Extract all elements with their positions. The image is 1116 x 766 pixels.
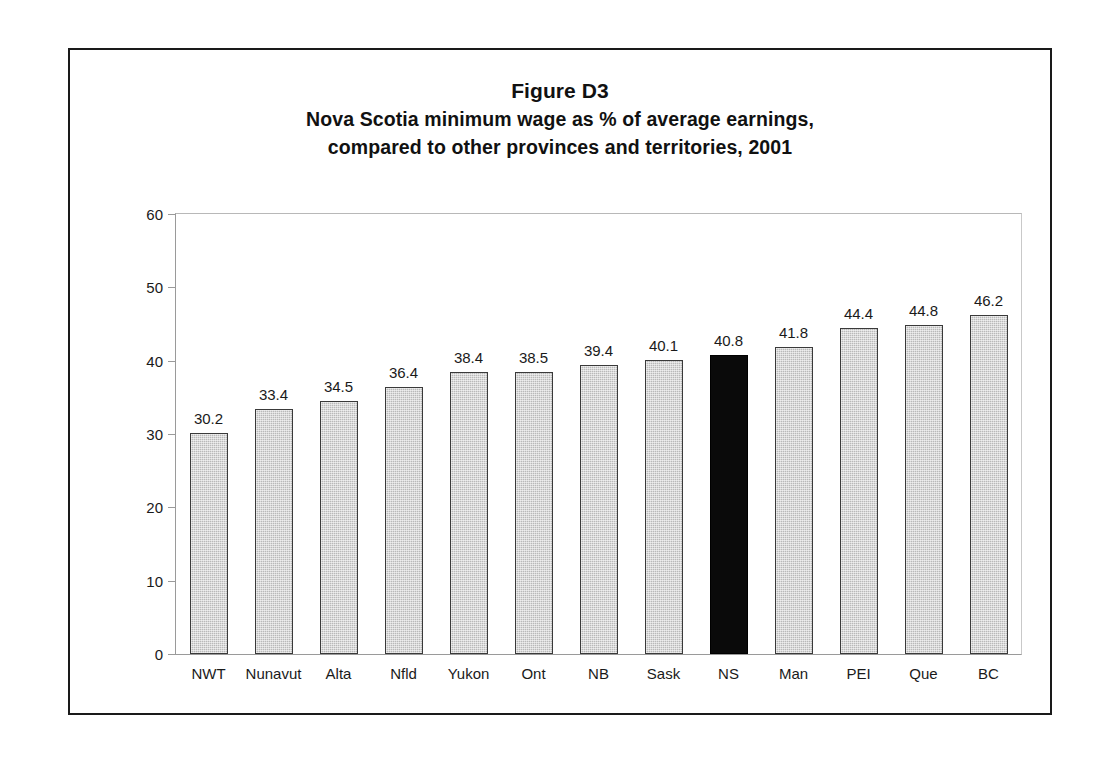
bar-group: 41.8Man (761, 214, 826, 654)
bar-group: 36.4Nfld (371, 214, 436, 654)
y-axis-tick-mark (168, 434, 176, 435)
bar-nunavut (255, 409, 293, 654)
bar-group: 30.2NWT (176, 214, 241, 654)
chart-title-line-2: Nova Scotia minimum wage as % of average… (70, 105, 1050, 133)
bar-nb (580, 365, 618, 654)
bar-ont (515, 372, 553, 654)
bar-group: 38.5Ont (501, 214, 566, 654)
bar-group: 40.1Sask (631, 214, 696, 654)
figure-frame: Figure D3 Nova Scotia minimum wage as % … (68, 48, 1052, 715)
y-axis-tick-mark (168, 287, 176, 288)
bar-sask (645, 360, 683, 654)
x-axis-label-man: Man (779, 665, 808, 682)
bar-value-label: 39.4 (584, 342, 613, 359)
x-axis-label-nunavut: Nunavut (246, 665, 302, 682)
bar-value-label: 40.8 (714, 332, 743, 349)
x-axis-label-bc: BC (978, 665, 999, 682)
bar-group: 33.4Nunavut (241, 214, 306, 654)
bar-value-label: 34.5 (324, 378, 353, 395)
bar-value-label: 38.5 (519, 349, 548, 366)
y-axis-tick-mark (168, 214, 176, 215)
bar-nfld (385, 387, 423, 654)
chart-title-line-1: Figure D3 (70, 77, 1050, 105)
bar-bc (970, 315, 1008, 654)
bar-man (775, 347, 813, 654)
y-axis-tick-mark (168, 581, 176, 582)
bar-alta (320, 401, 358, 654)
bar-group: 44.4PEI (826, 214, 891, 654)
bar-group: 34.5Alta (306, 214, 371, 654)
chart-title: Figure D3 Nova Scotia minimum wage as % … (70, 77, 1050, 161)
bar-group: 44.8Que (891, 214, 956, 654)
bar-value-label: 44.4 (844, 305, 873, 322)
chart-title-line-3: compared to other provinces and territor… (70, 133, 1050, 161)
x-axis-label-nb: NB (588, 665, 609, 682)
x-axis-label-ns: NS (718, 665, 739, 682)
x-axis-label-sask: Sask (647, 665, 680, 682)
y-axis-tick-mark (168, 507, 176, 508)
bar-value-label: 30.2 (194, 410, 223, 427)
bar-value-label: 38.4 (454, 349, 483, 366)
bar-yukon (450, 372, 488, 654)
x-axis-label-ont: Ont (521, 665, 545, 682)
plot-area: 010203040506030.2NWT33.4Nunavut34.5Alta3… (175, 213, 1022, 655)
x-axis-label-que: Que (909, 665, 937, 682)
bar-value-label: 33.4 (259, 386, 288, 403)
y-axis-tick-mark (168, 361, 176, 362)
y-axis-tick-mark (168, 654, 176, 655)
x-axis-label-nwt: NWT (191, 665, 225, 682)
bar-group: 40.8NS (696, 214, 761, 654)
x-axis-label-alta: Alta (326, 665, 352, 682)
bar-ns (710, 355, 748, 654)
bar-value-label: 44.8 (909, 302, 938, 319)
bar-que (905, 325, 943, 654)
bar-value-label: 40.1 (649, 337, 678, 354)
bar-nwt (190, 433, 228, 654)
bar-pei (840, 328, 878, 654)
bar-value-label: 46.2 (974, 292, 1003, 309)
x-axis-label-pei: PEI (846, 665, 870, 682)
bar-value-label: 41.8 (779, 324, 808, 341)
x-axis-label-nfld: Nfld (390, 665, 417, 682)
bar-group: 46.2BC (956, 214, 1021, 654)
x-axis-label-yukon: Yukon (448, 665, 490, 682)
bar-group: 39.4NB (566, 214, 631, 654)
bar-group: 38.4Yukon (436, 214, 501, 654)
bar-value-label: 36.4 (389, 364, 418, 381)
